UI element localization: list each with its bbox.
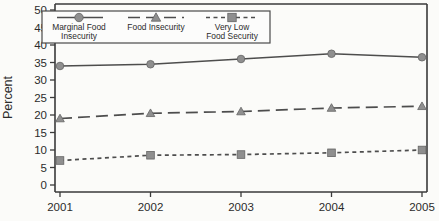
data-point-marker-very-low-food-security [56, 157, 64, 165]
data-point-marker-very-low-food-security [328, 149, 336, 157]
data-point-marker-very-low-food-security [237, 151, 245, 159]
x-axis-tick-label: 2002 [138, 201, 164, 213]
y-axis-tick-label: 5 [41, 162, 47, 174]
x-axis-tick-label: 2003 [228, 201, 254, 213]
y-axis-tick-label: 35 [34, 57, 47, 69]
y-axis-tick-label: 20 [34, 109, 47, 121]
y-axis-tick-label: 0 [41, 179, 47, 191]
chart-canvas: 05101520253035404550Percent2001200220032… [0, 0, 439, 221]
x-axis-tick-label: 2001 [47, 201, 73, 213]
legend-marker-circle-icon [75, 13, 83, 21]
food-insecurity-trend-chart: 05101520253035404550Percent2001200220032… [0, 0, 439, 221]
legend: Marginal FoodInsecurityFood InsecurityVe… [42, 11, 270, 43]
data-point-marker-marginal-food-insecurity [328, 50, 336, 58]
data-point-marker-marginal-food-insecurity [237, 55, 245, 63]
data-point-marker-very-low-food-security [418, 146, 426, 154]
legend-label: Food Insecurity [127, 22, 185, 32]
y-axis-tick-label: 30 [34, 74, 47, 86]
data-point-marker-marginal-food-insecurity [147, 60, 155, 68]
legend-label: Food Security [206, 31, 258, 41]
data-point-marker-very-low-food-security [147, 151, 155, 159]
y-axis-tick-label: 10 [34, 144, 47, 156]
data-point-marker-marginal-food-insecurity [418, 53, 426, 61]
legend-label: Insecurity [61, 31, 98, 41]
y-axis-tick-label: 15 [34, 127, 47, 139]
x-axis-tick-label: 2004 [319, 201, 345, 213]
y-axis-title: Percent [1, 75, 15, 119]
legend-marker-square-icon [228, 13, 236, 21]
y-axis-tick-label: 25 [34, 92, 47, 104]
x-axis-tick-label: 2005 [409, 201, 435, 213]
data-point-marker-marginal-food-insecurity [56, 62, 64, 70]
